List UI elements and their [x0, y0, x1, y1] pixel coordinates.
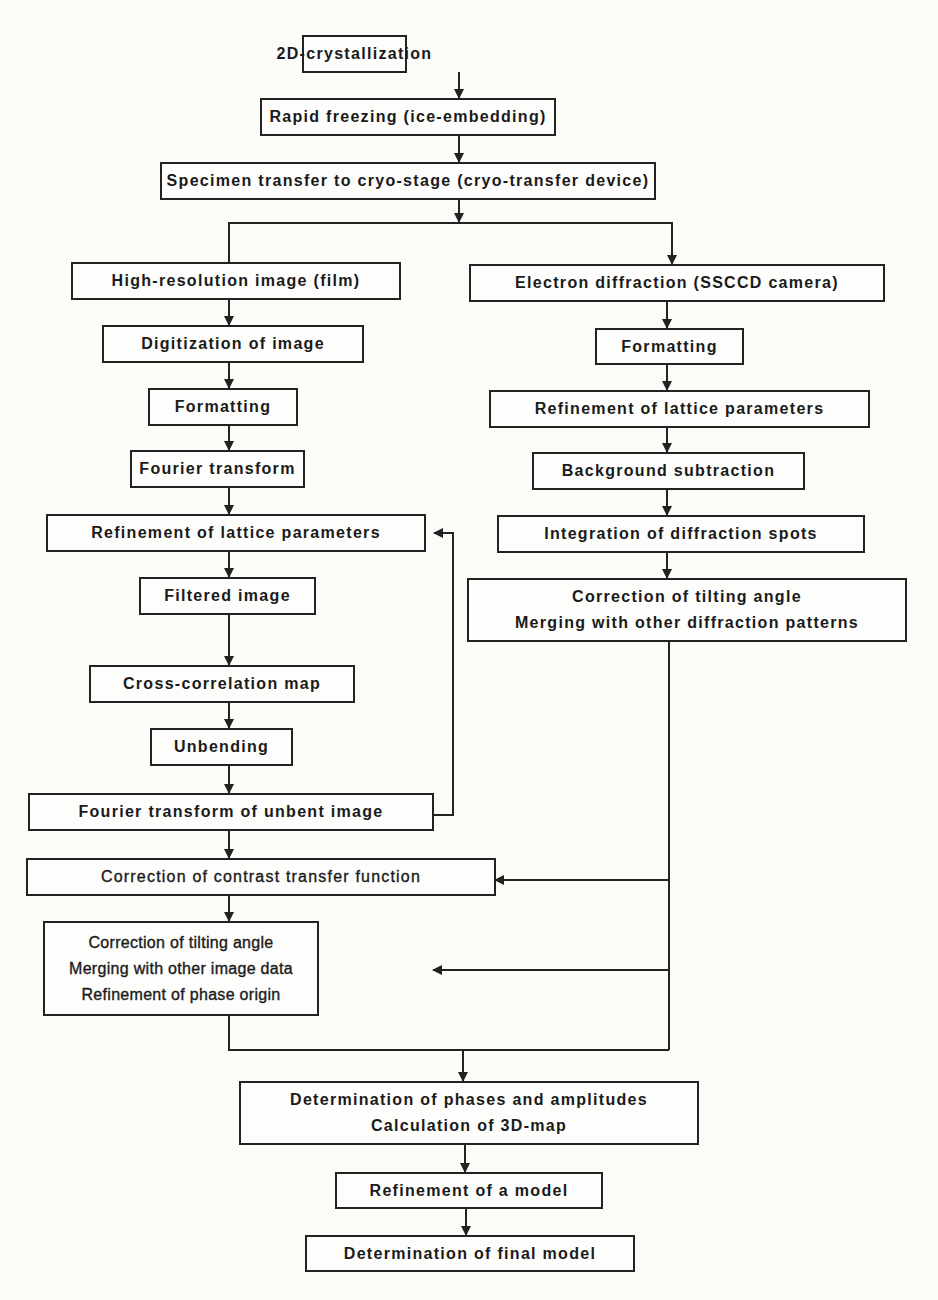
node-label: Refinement of a model	[370, 1178, 569, 1204]
node-label-line-2: Merging with other image data	[69, 956, 293, 982]
node-label: Formatting	[621, 334, 718, 360]
node-image-merging: Correction of tilting angle Merging with…	[43, 921, 319, 1016]
node-label-line-3: Refinement of phase origin	[81, 982, 280, 1008]
node-label: 2D-crystallization	[277, 41, 433, 67]
node-electron-diffraction: Electron diffraction (SSCCD camera)	[469, 264, 885, 302]
node-label-line-1: Correction of tilting angle	[88, 930, 273, 956]
node-fourier-transform: Fourier transform	[130, 450, 305, 488]
node-label: High-resolution image (film)	[112, 268, 361, 294]
node-label: Correction of contrast transfer function	[101, 864, 421, 890]
node-label: Integration of diffraction spots	[544, 521, 818, 547]
node-label: Specimen transfer to cryo-stage (cryo-tr…	[167, 168, 650, 194]
node-specimen-transfer: Specimen transfer to cryo-stage (cryo-tr…	[160, 162, 656, 200]
node-label-line-1: Correction of tilting angle	[572, 584, 802, 610]
node-cross-correlation-map: Cross-correlation map	[89, 665, 355, 703]
node-label-line-2: Merging with other diffraction patterns	[515, 610, 859, 636]
node-label-line-2: Calculation of 3D-map	[371, 1113, 567, 1139]
node-unbending: Unbending	[150, 728, 293, 766]
node-ctf-correction: Correction of contrast transfer function	[26, 858, 496, 896]
node-fourier-unbent: Fourier transform of unbent image	[28, 793, 434, 831]
node-image-lattice-refinement: Refinement of lattice parameters	[46, 514, 426, 552]
node-label: Formatting	[175, 394, 272, 420]
node-label: Cross-correlation map	[123, 671, 321, 697]
node-label: Determination of final model	[344, 1241, 596, 1267]
node-label: Fourier transform of unbent image	[78, 799, 383, 825]
node-diffraction-formatting: Formatting	[595, 328, 744, 365]
node-final-model: Determination of final model	[305, 1235, 635, 1272]
node-filtered-image: Filtered image	[139, 577, 316, 615]
node-image-formatting: Formatting	[148, 388, 298, 426]
node-label-line-1: Determination of phases and amplitudes	[290, 1087, 648, 1113]
node-rapid-freezing: Rapid freezing (ice-embedding)	[260, 98, 556, 136]
node-label: Unbending	[174, 734, 269, 760]
node-label: Digitization of image	[141, 331, 325, 357]
node-diffraction-merging: Correction of tilting angle Merging with…	[467, 578, 907, 642]
node-diffraction-lattice-refinement: Refinement of lattice parameters	[489, 390, 870, 428]
node-integration-spots: Integration of diffraction spots	[497, 515, 865, 553]
node-label: Refinement of lattice parameters	[535, 396, 825, 422]
node-label: Filtered image	[164, 583, 291, 609]
node-label: Refinement of lattice parameters	[91, 520, 381, 546]
node-refinement-model: Refinement of a model	[335, 1172, 603, 1209]
node-digitization: Digitization of image	[102, 325, 364, 363]
node-label: Electron diffraction (SSCCD camera)	[515, 270, 839, 296]
node-high-resolution-image: High-resolution image (film)	[71, 262, 401, 300]
node-2d-crystallization: 2D-crystallization	[302, 35, 407, 73]
node-background-subtraction: Background subtraction	[532, 452, 805, 490]
node-label: Background subtraction	[562, 458, 776, 484]
node-phases-amplitudes: Determination of phases and amplitudes C…	[239, 1081, 699, 1145]
node-label: Fourier transform	[139, 456, 295, 482]
node-label: Rapid freezing (ice-embedding)	[269, 104, 546, 130]
